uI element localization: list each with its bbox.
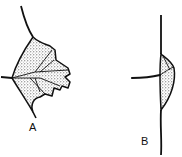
stem-b-side-branch <box>132 75 160 78</box>
stem-b-lobe <box>160 54 175 110</box>
leaf-a-petiole <box>1 77 12 78</box>
stem-b <box>132 15 174 155</box>
leaf-a-upper-stem <box>21 6 33 37</box>
panel-label-b: B <box>141 135 148 147</box>
figure-canvas <box>0 0 182 157</box>
leaf-a <box>1 6 70 118</box>
leaf-a-lower-stem <box>33 112 36 118</box>
panel-label-a: A <box>29 121 36 133</box>
leaf-a-blade <box>12 37 70 112</box>
